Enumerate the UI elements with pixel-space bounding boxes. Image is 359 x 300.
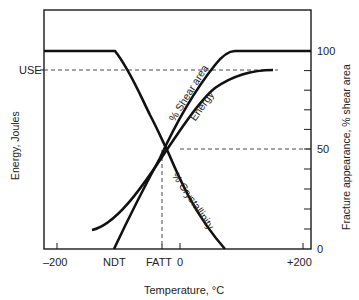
y-axis-left-title: Energy, Joules: [9, 111, 21, 180]
x-tick-plus200: +200: [287, 256, 312, 268]
x-axis-title: Temperature, °C: [144, 284, 224, 296]
use-label: USE: [19, 64, 42, 76]
x-tick-ndt: NDT: [103, 256, 126, 268]
plot-frame: [44, 10, 311, 249]
right-tick-0: 0: [317, 243, 323, 255]
chart-canvas: [0, 0, 359, 300]
right-axis-ticks: [303, 51, 311, 229]
x-ticks: [57, 243, 303, 249]
x-tick-minus200: –200: [43, 256, 67, 268]
right-tick-50: 50: [317, 143, 329, 155]
y-axis-right-title: Fracture appearance, % shear area: [340, 64, 352, 230]
right-tick-100: 100: [317, 45, 335, 57]
x-tick-zero: 0: [177, 256, 183, 268]
x-tick-fatt: FATT: [146, 256, 172, 268]
